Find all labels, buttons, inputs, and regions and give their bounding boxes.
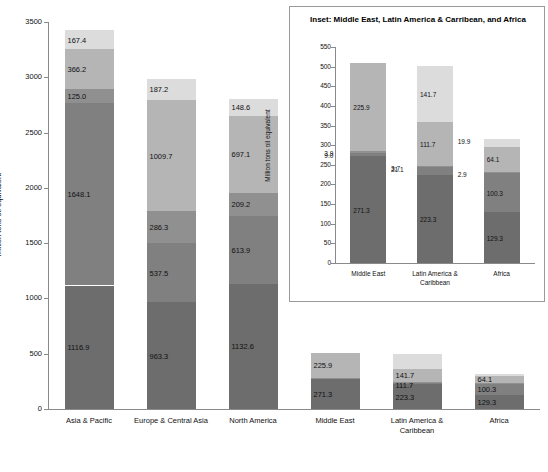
inset-y-axis-label: Million tons oil equivalent — [264, 91, 271, 201]
inset-y-axis-line — [335, 47, 336, 263]
x-axis-category-label: Africa — [468, 270, 535, 279]
bar-segment[interactable]: 286.3 — [147, 211, 196, 243]
bar-segment[interactable]: 1009.7 — [147, 100, 196, 212]
bar-segment-value-label: 187.2 — [150, 85, 169, 94]
bar-segment[interactable]: 64.1 — [484, 147, 520, 172]
y-tick-label: 250 — [301, 161, 331, 168]
stacked-bar[interactable]: 129.3100.32.964.119.9 — [484, 47, 520, 263]
bar-segment[interactable]: 271.3 — [350, 156, 386, 263]
bar-segment[interactable]: 111.7 — [417, 122, 453, 166]
bar-segment[interactable]: 19.9 — [484, 139, 520, 147]
y-tick-label: 2500 — [4, 129, 42, 137]
bar-segment-value-label: 963.3 — [150, 351, 169, 360]
y-tick-label: 1000 — [4, 294, 42, 302]
bar-segment[interactable]: 223.3 — [417, 175, 453, 263]
y-tick-label: 100 — [301, 220, 331, 227]
bar-segment[interactable]: 125.0 — [65, 89, 114, 103]
bar-segment[interactable]: 613.9 — [229, 216, 278, 284]
bar-segment-value-label: 111.7 — [396, 381, 414, 390]
stacked-bar[interactable]: 1132.6613.9209.2697.1148.6 — [229, 22, 278, 409]
bar-segment-value-label: 111.7 — [420, 140, 435, 147]
stacked-bar[interactable]: 271.39.03.9225.9 — [350, 47, 386, 263]
x-axis-category-label: North America — [212, 416, 294, 426]
bar-segment-value-label: 100.3 — [487, 189, 503, 196]
y-tick-label: 500 — [301, 63, 331, 70]
y-tick-label: 50 — [301, 239, 331, 246]
x-axis-category-label: Asia & Pacific — [48, 416, 130, 426]
bar-segment-value-label: 697.1 — [232, 150, 251, 159]
bar-segment[interactable]: 167.4 — [65, 30, 114, 49]
bar-segment-value-label: 129.3 — [487, 234, 503, 241]
bar-segment-value-label: 1132.6 — [232, 342, 254, 351]
bar-segment[interactable]: 3.7 — [417, 166, 453, 167]
y-tick-label: 300 — [301, 141, 331, 148]
y-tick-label: 3000 — [4, 73, 42, 81]
inset-chart-panel: Inset: Middle East, Latin America & Carr… — [289, 6, 545, 302]
bar-segment[interactable]: 141.7 — [417, 66, 453, 122]
bar-segment[interactable]: 537.5 — [147, 243, 196, 302]
bar-segment[interactable]: 366.2 — [65, 49, 114, 89]
bar-segment[interactable]: 271.3 — [311, 379, 360, 409]
bar-segment-value-label: 271.3 — [353, 206, 369, 213]
bar-segment-value-label: 225.9 — [353, 104, 369, 111]
bar-segment[interactable]: 100.3 — [484, 173, 520, 212]
bar-segment[interactable]: 225.9 — [311, 353, 360, 378]
x-axis-category-label: Africa — [458, 416, 540, 426]
bar-segment[interactable] — [393, 354, 442, 370]
bar-segment[interactable] — [311, 378, 360, 379]
bar-segment[interactable]: 129.3 — [475, 395, 524, 409]
bar-segment[interactable]: 1116.9 — [65, 286, 114, 409]
inset-title: Inset: Middle East, Latin America & Carr… — [296, 14, 540, 25]
bar-segment[interactable]: 187.2 — [147, 79, 196, 100]
bar-segment-value-label: 1116.9 — [68, 343, 90, 352]
y-tick-label: 400 — [301, 102, 331, 109]
y-tick-label: 200 — [301, 180, 331, 187]
bar-segment[interactable]: 129.3 — [484, 212, 520, 263]
bar-segment-value-label: 613.9 — [232, 245, 251, 254]
bar-segment-value-label: 286.3 — [150, 223, 169, 232]
stacked-bar[interactable]: 223.321.13.7111.7141.7 — [417, 47, 453, 263]
y-tick-label: 350 — [301, 122, 331, 129]
bar-segment-value-label: 3.7 — [391, 165, 400, 172]
main-x-axis-line — [48, 409, 540, 410]
stacked-bar[interactable]: 1116.91648.1125.0366.2167.4 — [65, 22, 114, 409]
bar-segment[interactable]: 21.1 — [417, 167, 453, 175]
bar-segment[interactable]: 3.9 — [350, 151, 386, 153]
bar-segment-value-label: 366.2 — [68, 65, 87, 74]
bar-segment[interactable]: 225.9 — [350, 63, 386, 152]
chart-figure: Million tons oil equivalent 050010001500… — [0, 0, 548, 472]
y-tick-label: 3500 — [4, 18, 42, 26]
bar-segment-value-label: 223.3 — [396, 392, 415, 401]
bar-segment[interactable]: 963.3 — [147, 302, 196, 409]
x-axis-category-label: Middle East — [294, 416, 376, 426]
bar-segment-value-label: 167.4 — [68, 35, 87, 44]
stacked-bar[interactable]: 963.3537.5286.31009.7187.2 — [147, 22, 196, 409]
bar-segment[interactable]: 1648.1 — [65, 103, 114, 285]
y-tick-label: 0 — [4, 405, 42, 413]
bar-segment[interactable]: 2.9 — [484, 172, 520, 173]
bar-segment[interactable] — [475, 374, 524, 376]
bar-segment[interactable]: 141.7 — [393, 369, 442, 381]
bar-segment-value-label: 64.1 — [487, 156, 500, 163]
main-y-axis-label: Million tons oil equivalent — [0, 154, 3, 274]
bar-segment-value-label: 209.2 — [232, 200, 251, 209]
bar-segment-value-label: 223.3 — [420, 216, 436, 223]
y-tick-label: 500 — [4, 350, 42, 358]
main-y-axis-line — [48, 22, 49, 409]
bar-segment[interactable]: 100.3 — [475, 384, 524, 395]
x-axis-category-label: Europe & Central Asia — [130, 416, 212, 426]
y-tick-label: 1500 — [4, 239, 42, 247]
bar-segment[interactable]: 9.0 — [350, 153, 386, 157]
y-tick-label: 150 — [301, 200, 331, 207]
bar-segment[interactable]: 1132.6 — [229, 284, 278, 409]
bar-segment-value-label: 1009.7 — [150, 151, 173, 160]
y-tick-label: 2000 — [4, 184, 42, 192]
bar-segment-value-label: 100.3 — [478, 385, 497, 394]
bar-segment-value-label: 3.9 — [324, 150, 333, 157]
bar-segment-value-label: 1648.1 — [68, 190, 91, 199]
bar-segment-value-label: 19.9 — [458, 138, 471, 145]
bar-segment[interactable]: 64.1 — [475, 376, 524, 383]
bar-segment-value-label: 129.3 — [478, 397, 497, 406]
bar-segment-value-label: 141.7 — [420, 90, 436, 97]
inset-x-axis-line — [335, 263, 535, 264]
